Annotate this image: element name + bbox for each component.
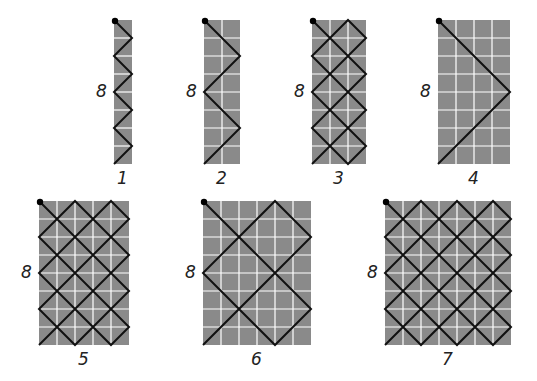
start-dot-icon [37,199,43,205]
height-label-5: 8 [21,262,32,282]
grid-figure-5 [37,199,129,345]
width-label-3: 3 [333,168,344,188]
width-label-1: 1 [117,168,128,188]
width-label-6: 6 [251,349,262,369]
grid-figure-2 [202,18,240,164]
width-label-7: 7 [442,349,453,369]
height-label-4: 8 [420,81,431,101]
width-label-2: 2 [216,168,227,188]
start-dot-icon [310,18,316,24]
grid-figure-6 [201,199,311,345]
diagram-stage: 81828384858687 [0,0,537,381]
grid-figure-3 [310,18,366,164]
start-dot-icon [202,18,208,24]
start-dot-icon [201,199,207,205]
height-label-6: 8 [185,262,196,282]
height-label-7: 8 [367,262,378,282]
grid-figures-canvas [0,0,537,381]
width-label-5: 5 [78,349,89,369]
start-dot-icon [383,199,389,205]
width-label-4: 4 [468,168,479,188]
grid-figure-7 [383,199,511,345]
grid-figure-4 [436,18,510,164]
height-label-1: 8 [96,81,107,101]
start-dot-icon [436,18,442,24]
grid-figure-1 [112,18,132,164]
height-label-2: 8 [186,81,197,101]
height-label-3: 8 [294,81,305,101]
start-dot-icon [112,18,118,24]
